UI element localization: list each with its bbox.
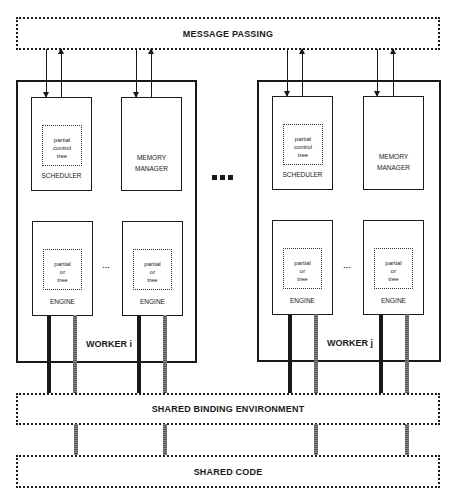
scheduler-j: partial control tree SCHEDULER [272, 96, 333, 190]
inner-text: partial [43, 136, 81, 144]
inner-text: tree [134, 276, 171, 284]
engine-connector-black [288, 314, 292, 395]
inner-text: tree [284, 151, 322, 159]
code-connector [314, 424, 318, 456]
inner-text: partial [134, 260, 171, 268]
inner-text: partial [375, 259, 412, 267]
partial-or-tree: partial or tree [283, 248, 322, 289]
inner-text: partial [44, 260, 81, 268]
inner-text: control [284, 143, 322, 151]
inner-text: or [284, 267, 321, 275]
worker-i-label: WORKER i [86, 339, 132, 349]
inner-text: or [375, 267, 412, 275]
partial-or-tree: partial or tree [133, 249, 172, 290]
ellipsis-square [228, 175, 233, 180]
engine-connector-black [47, 315, 51, 395]
inner-text: tree [44, 276, 81, 284]
inner-text: tree [375, 275, 412, 283]
scheduler-label: SCHEDULER [32, 171, 91, 180]
inner-text: or [44, 268, 81, 276]
engine-i-1: partial or tree ENGINE [32, 221, 93, 316]
manager-label: MANAGER [122, 164, 181, 173]
engine-label: ENGINE [123, 297, 182, 306]
inner-text: partial [284, 259, 321, 267]
engine-connector-gray [405, 314, 409, 395]
engine-label: ENGINE [273, 296, 332, 305]
engine-j-2: partial or tree ENGINE [363, 220, 424, 315]
worker-j-label: WORKER j [327, 338, 373, 348]
shared-binding-environment-bus: SHARED BINDING ENVIRONMENT [16, 393, 440, 425]
partial-control-tree-i: partial control tree [42, 125, 82, 166]
engine-i-2: partial or tree ENGINE [122, 221, 183, 316]
code-connector [74, 424, 78, 456]
engine-label: ENGINE [364, 296, 423, 305]
shared-binding-environment-label: SHARED BINDING ENVIRONMENT [18, 404, 438, 414]
ellipsis-square [220, 175, 225, 180]
memory-manager-j: MEMORY MANAGER [363, 96, 424, 190]
engine-connector-black [137, 315, 141, 395]
partial-or-tree: partial or tree [43, 249, 82, 290]
shared-code-label: SHARED CODE [18, 467, 438, 477]
engine-connector-gray [314, 314, 318, 395]
engine-j-1: partial or tree ENGINE [272, 220, 333, 315]
message-passing-label: MESSAGE PASSING [18, 29, 438, 39]
engine-connector-gray [73, 315, 77, 395]
manager-label: MANAGER [364, 163, 423, 172]
ellipsis-square [212, 175, 217, 180]
scheduler-i: partial control tree SCHEDULER [31, 97, 92, 191]
code-connector [163, 424, 167, 456]
inner-text: tree [284, 275, 321, 283]
inner-text: or [134, 268, 171, 276]
engine-label: ENGINE [33, 297, 92, 306]
message-passing-bus: MESSAGE PASSING [16, 17, 440, 50]
scheduler-label: SCHEDULER [273, 170, 332, 179]
engine-ellipsis-i: … [102, 261, 110, 270]
partial-or-tree: partial or tree [374, 248, 413, 289]
inner-text: control [43, 144, 81, 152]
inner-text: tree [43, 152, 81, 160]
engine-ellipsis-j: … [343, 261, 351, 270]
engine-connector-black [379, 314, 383, 395]
workers-ellipsis [212, 175, 233, 180]
shared-code-bus: SHARED CODE [16, 455, 440, 488]
memory-manager-i: MEMORY MANAGER [121, 97, 182, 191]
inner-text: partial [284, 135, 322, 143]
partial-control-tree-j: partial control tree [283, 124, 323, 165]
memory-label: MEMORY [364, 152, 423, 161]
code-connector [405, 424, 409, 456]
engine-connector-gray [163, 315, 167, 395]
memory-label: MEMORY [122, 153, 181, 162]
